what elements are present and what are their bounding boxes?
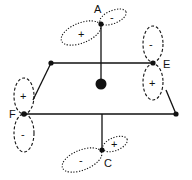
label-f: F [9,108,16,120]
sign-c-plus: + [111,138,117,150]
atom-topleft-dot [48,60,53,65]
orbital-c [59,133,130,177]
sign-f-minus: - [21,128,25,140]
sign-a-plus: + [78,28,84,40]
central-atom-dot [96,79,107,90]
label-c: C [104,157,112,169]
bond-e-bottomright [166,90,176,114]
label-e: E [163,58,170,70]
atom-c-dot [99,147,104,152]
sign-c-minus: - [79,154,83,166]
sign-e-minus: - [149,38,153,50]
atom-f-dot [21,111,27,117]
atom-e-dot [150,60,155,65]
atom-bottomright-dot [173,111,178,116]
bond-topleft-f [33,63,51,100]
label-a: A [94,3,102,15]
lobe-e-minus [143,26,163,62]
orbital-diagram: + - A - + E + - F - + C [0,0,192,180]
atom-a-dot [98,21,103,26]
sign-a-minus: - [110,11,114,23]
sign-e-plus: + [149,77,155,89]
sign-f-plus: + [20,90,26,102]
